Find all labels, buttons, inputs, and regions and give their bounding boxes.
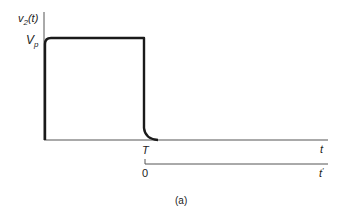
t-prime-axis-label: t′ [319, 166, 324, 179]
t-axis-label: t [320, 143, 324, 155]
pulse-end-label: T [142, 144, 150, 156]
amplitude-label: Vp [26, 33, 39, 49]
figure-caption: (a) [175, 195, 187, 206]
y-axis-label: v2(t) [18, 12, 39, 27]
pulse-waveform [45, 38, 158, 140]
pulse-diagram: v2(t) Vp T t 0 t′ (a) [0, 0, 343, 221]
t-prime-origin-label: 0 [142, 167, 148, 179]
